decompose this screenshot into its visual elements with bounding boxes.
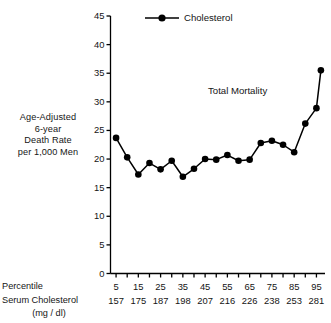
series-data-point [180, 173, 187, 180]
row-label-percentile: Percentile [2, 281, 43, 292]
row-label-units: (mg / dl) [2, 308, 96, 319]
series-data-point [269, 137, 276, 144]
y-axis-tick-label: 10 [83, 211, 105, 220]
series-data-point [291, 149, 298, 156]
series-data-point [302, 120, 309, 127]
series-data-point [257, 140, 264, 147]
series-data-point [224, 152, 231, 159]
series-data-point [318, 67, 325, 74]
y-axis-tick-label: 0 [83, 269, 105, 278]
series-data-point [280, 141, 287, 148]
y-axis-tick-label: 40 [83, 40, 105, 49]
y-axis-tick-label: 35 [83, 68, 105, 77]
row-label-serum-cholesterol: Serum Cholesterol [2, 295, 78, 306]
x-axis-tick-label-percentile: 95 [303, 282, 329, 291]
series-data-point [213, 156, 220, 163]
series-data-point [202, 156, 209, 163]
x-axis-serum-cholesterol-value: 281 [303, 296, 329, 305]
y-axis-tick-label: 45 [83, 11, 105, 20]
y-axis-tick-label: 5 [83, 240, 105, 249]
axes [111, 16, 326, 274]
series-data-point [113, 135, 120, 142]
y-axis-tick-label: 30 [83, 97, 105, 106]
series-data-point [191, 165, 198, 172]
series-data-point [168, 157, 175, 164]
series-data-point [135, 171, 142, 178]
series-data-point [124, 154, 131, 161]
y-axis-tick-label: 25 [83, 125, 105, 134]
y-axis-tick-label: 20 [83, 154, 105, 163]
y-axis-tick-label: 15 [83, 183, 105, 192]
series-data-point [246, 156, 253, 163]
series-points-cholesterol [113, 67, 324, 180]
series-data-point [235, 157, 242, 164]
cholesterol-mortality-chart: Age-Adjusted 6-year Death Rate per 1,000… [0, 0, 331, 323]
series-data-point [313, 105, 320, 112]
series-data-point [157, 166, 164, 173]
plot-area [0, 0, 331, 323]
series-data-point [146, 160, 153, 167]
